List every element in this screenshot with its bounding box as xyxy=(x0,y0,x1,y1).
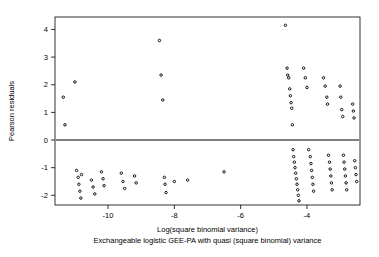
data-point xyxy=(77,176,79,178)
data-point xyxy=(329,168,331,170)
data-point xyxy=(289,95,291,97)
x-axis-tick-label: -6 xyxy=(237,211,244,220)
x-axis-title: Log(square binomial variance) xyxy=(157,225,258,234)
data-point xyxy=(291,124,293,126)
data-point xyxy=(135,182,137,184)
data-point xyxy=(123,187,125,189)
y-axis-tick-label: 3 xyxy=(44,53,48,62)
data-point xyxy=(297,194,299,196)
y-axis-tick-label: -2 xyxy=(41,191,48,200)
x-axis-tick-label: -4 xyxy=(304,211,311,220)
data-point xyxy=(286,74,288,76)
data-point xyxy=(64,124,66,126)
data-point xyxy=(286,67,288,69)
data-point xyxy=(94,193,96,195)
y-axis-tick-label: 1 xyxy=(44,108,48,117)
data-point xyxy=(307,148,309,150)
data-point xyxy=(162,99,164,101)
data-point xyxy=(302,67,304,69)
data-point xyxy=(160,74,162,76)
y-axis-tick-label: 0 xyxy=(44,136,48,145)
data-point xyxy=(296,189,298,191)
data-point xyxy=(293,161,295,163)
data-point xyxy=(312,183,314,185)
data-point xyxy=(165,191,167,193)
data-point xyxy=(330,182,332,184)
data-point xyxy=(304,77,306,79)
data-point xyxy=(342,115,344,117)
data-point xyxy=(345,182,347,184)
data-point xyxy=(310,169,312,171)
data-point xyxy=(223,171,225,173)
y-axis-tick-label: 2 xyxy=(44,80,48,89)
data-point xyxy=(351,103,353,105)
data-point xyxy=(80,197,82,199)
data-point xyxy=(342,154,344,156)
data-point xyxy=(311,176,313,178)
data-point xyxy=(173,180,175,182)
data-point xyxy=(324,85,326,87)
data-point xyxy=(90,179,92,181)
data-point xyxy=(133,175,135,177)
data-point xyxy=(354,166,356,168)
data-point xyxy=(295,178,297,180)
data-point xyxy=(284,24,286,26)
data-point xyxy=(120,172,122,174)
plot-box xyxy=(55,17,360,205)
data-point xyxy=(290,107,292,109)
data-point xyxy=(346,189,348,191)
data-point xyxy=(355,180,357,182)
data-point xyxy=(331,189,333,191)
data-point xyxy=(122,180,124,182)
data-point xyxy=(340,96,342,98)
data-point xyxy=(344,175,346,177)
data-point xyxy=(163,176,165,178)
data-point xyxy=(298,200,300,202)
chart-subtitle: Exchangeable logistic GEE-PA with quasi … xyxy=(94,236,322,245)
data-point xyxy=(353,160,355,162)
data-point xyxy=(326,96,328,98)
data-point xyxy=(103,184,105,186)
data-point xyxy=(310,162,312,164)
data-point xyxy=(353,117,355,119)
data-point xyxy=(327,154,329,156)
data-point xyxy=(352,110,354,112)
data-point xyxy=(322,77,324,79)
data-point xyxy=(330,175,332,177)
data-point xyxy=(344,168,346,170)
data-point xyxy=(288,88,290,90)
data-point xyxy=(62,96,64,98)
data-point xyxy=(164,183,166,185)
plot-area-svg: -2-101234-10-8-6-4Log(square binomial va… xyxy=(0,0,379,257)
data-point xyxy=(186,179,188,181)
data-point xyxy=(294,172,296,174)
data-point xyxy=(309,155,311,157)
data-point xyxy=(306,86,308,88)
data-point xyxy=(158,39,160,41)
data-point xyxy=(296,183,298,185)
data-point xyxy=(102,178,104,180)
data-point xyxy=(80,173,82,175)
data-point xyxy=(292,148,294,150)
y-axis-title: Pearson residuals xyxy=(7,81,16,141)
data-point xyxy=(79,190,81,192)
data-point xyxy=(294,166,296,168)
data-point xyxy=(328,161,330,163)
data-point xyxy=(74,81,76,83)
data-point xyxy=(341,108,343,110)
data-point xyxy=(343,161,345,163)
y-axis-tick-label: -1 xyxy=(41,163,48,172)
data-point xyxy=(312,190,314,192)
data-point xyxy=(339,85,341,87)
data-point xyxy=(326,103,328,105)
data-point xyxy=(75,169,77,171)
x-axis-tick-label: -10 xyxy=(103,211,114,220)
y-axis-tick-label: 4 xyxy=(44,25,48,34)
data-point xyxy=(78,183,80,185)
data-point xyxy=(92,186,94,188)
data-points-group xyxy=(62,24,358,202)
data-point xyxy=(290,101,292,103)
x-axis-tick-label: -8 xyxy=(171,211,178,220)
data-point xyxy=(100,171,102,173)
data-point xyxy=(355,173,357,175)
